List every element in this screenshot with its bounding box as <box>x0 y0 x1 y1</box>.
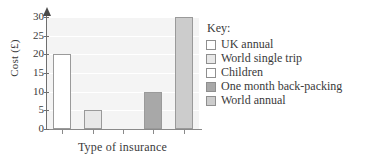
y-axis-tick-label: 0 <box>22 123 44 134</box>
legend-item: World annual <box>206 94 377 108</box>
legend-item-label: Children <box>221 66 263 79</box>
x-axis-tick-mark <box>184 130 185 134</box>
legend-swatch <box>206 68 216 78</box>
chart-bar <box>53 54 71 129</box>
y-axis-tick-mark <box>44 110 49 111</box>
legend-items: UK annualWorld single tripChildrenOne mo… <box>206 38 377 108</box>
y-axis-tick-mark <box>44 92 49 93</box>
legend-item-label: One month back-packing <box>221 80 342 93</box>
legend: Key: UK annualWorld single tripChildrenO… <box>206 22 377 108</box>
legend-item: UK annual <box>206 38 377 52</box>
y-axis-tick-label: 5 <box>22 104 44 115</box>
bar-chart-figure: Cost (£) 051015202530 Type of insurance … <box>0 0 377 166</box>
x-axis-tick-mark <box>123 130 124 134</box>
y-axis-tick-label: 10 <box>22 86 44 97</box>
legend-item: One month back-packing <box>206 80 377 94</box>
y-axis-tick-label: 25 <box>22 30 44 41</box>
legend-swatch <box>206 40 216 50</box>
legend-item: Children <box>206 66 377 80</box>
y-axis-tick-mark <box>44 73 49 74</box>
chart-bar <box>84 110 102 129</box>
y-axis-tick-mark <box>44 54 49 55</box>
legend-swatch <box>206 96 216 106</box>
y-axis-tick-mark <box>44 36 49 37</box>
x-axis-tick-mark <box>62 130 63 134</box>
legend-item: World single trip <box>206 52 377 66</box>
legend-swatch <box>206 54 216 64</box>
y-axis-tick-mark <box>44 17 49 18</box>
y-axis-tick-label: 15 <box>22 67 44 78</box>
chart-area: Cost (£) 051015202530 Type of insurance <box>0 0 205 166</box>
y-axis-tick-mark <box>44 129 49 130</box>
legend-item-label: UK annual <box>221 38 273 51</box>
legend-title: Key: <box>207 22 377 36</box>
legend-item-label: World annual <box>221 94 286 107</box>
chart-bar <box>144 92 162 129</box>
x-axis-line <box>47 129 202 130</box>
x-axis-tick-mark <box>93 130 94 134</box>
y-axis-tick-label: 30 <box>22 11 44 22</box>
y-axis-tick-label: 20 <box>22 48 44 59</box>
y-axis-arrow-icon <box>43 7 51 16</box>
x-axis-tick-mark <box>153 130 154 134</box>
x-axis-title: Type of insurance <box>40 140 205 155</box>
legend-item-label: World single trip <box>221 52 302 65</box>
chart-bar <box>175 17 193 129</box>
plot-region <box>47 17 199 129</box>
legend-swatch <box>206 82 216 92</box>
